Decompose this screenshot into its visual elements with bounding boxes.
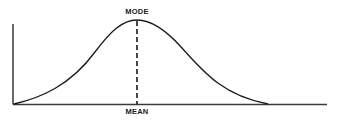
bell-curve [14,20,268,104]
mean-label: MEAN [126,107,149,116]
distribution-diagram: MODE MEAN [0,0,340,120]
mode-label: MODE [125,7,148,16]
